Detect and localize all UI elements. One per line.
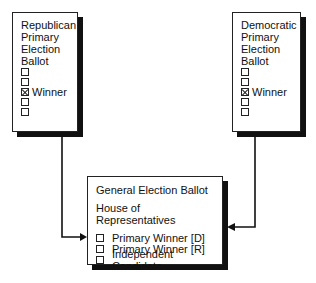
ballot-title-line: Primary <box>241 31 300 43</box>
ballot-title-line: Democratic <box>241 19 300 31</box>
checkbox-empty-icon <box>96 245 104 253</box>
checkbox-empty-icon <box>241 68 249 76</box>
checkbox-empty-icon <box>241 108 249 116</box>
general-ballot-title: General Election Ballot <box>96 184 222 196</box>
ballot-option <box>21 107 77 117</box>
republican-to-general-arrow <box>62 137 80 237</box>
ballot-option <box>21 97 77 107</box>
republican-primary-ballot: Republican Primary Election Ballot Winne… <box>12 12 78 132</box>
ballot-option-winner: Winner <box>241 87 300 97</box>
checkbox-checked-icon <box>241 88 249 96</box>
ballot-option-winner: Winner <box>21 87 77 97</box>
winner-label: Winner <box>252 86 287 98</box>
ballot-option: Independent Candidate <box>96 254 222 265</box>
winner-label: Winner <box>32 86 67 98</box>
checkbox-checked-icon <box>21 88 29 96</box>
checkbox-empty-icon <box>241 98 249 106</box>
general-election-ballot: General Election Ballot House of Represe… <box>87 176 223 265</box>
checkbox-empty-icon <box>21 108 29 116</box>
ballot-option <box>241 107 300 117</box>
ballot-title-line: Election <box>241 43 300 55</box>
option-label: Independent Candidate <box>112 248 222 272</box>
general-ballot-subtitle: House of Representatives <box>96 202 222 226</box>
democratic-to-general-arrow <box>235 137 255 227</box>
ballot-option <box>241 97 300 107</box>
checkbox-empty-icon <box>96 256 104 264</box>
ballot-title-line: Ballot <box>21 55 77 67</box>
ballot-option: Primary Winner [D] <box>96 232 222 243</box>
ballot-title-line: Primary <box>21 31 77 43</box>
ballot-title-line: Election <box>21 43 77 55</box>
arrowhead-left-icon <box>80 233 87 241</box>
checkbox-empty-icon <box>241 78 249 86</box>
checkbox-empty-icon <box>21 98 29 106</box>
checkbox-empty-icon <box>96 234 104 242</box>
arrowhead-right-icon <box>227 223 235 231</box>
ballot-title-line: Republican <box>21 19 77 31</box>
democratic-primary-ballot: Democratic Primary Election Ballot Winne… <box>232 12 301 132</box>
checkbox-empty-icon <box>21 68 29 76</box>
ballot-option <box>21 67 77 77</box>
checkbox-empty-icon <box>21 78 29 86</box>
ballot-title-line: Ballot <box>241 55 300 67</box>
ballot-option <box>241 67 300 77</box>
